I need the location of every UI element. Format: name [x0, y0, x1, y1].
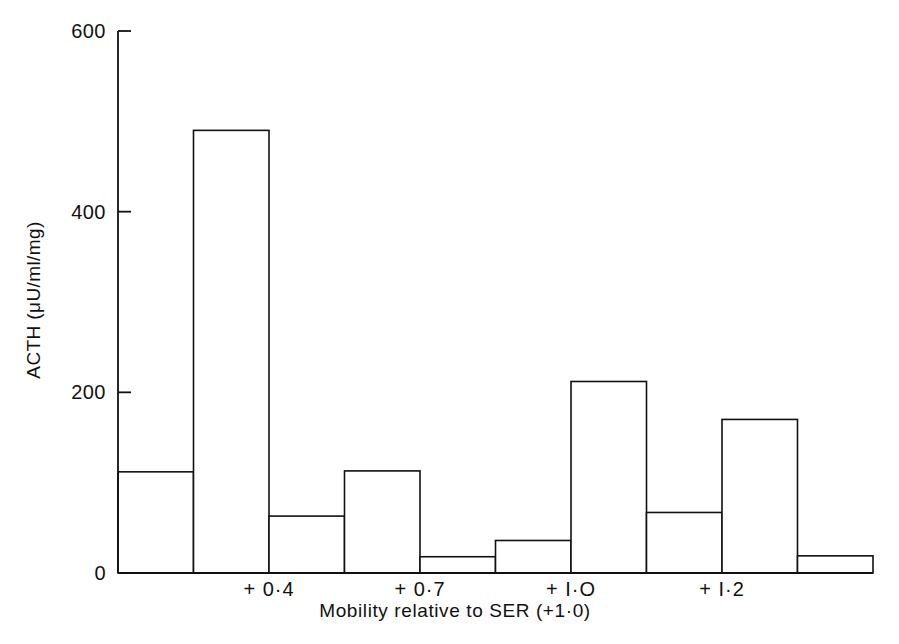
bar: [345, 471, 421, 573]
x-axis-title: Mobility relative to SER (+1·0): [319, 600, 591, 622]
bar: [722, 419, 798, 573]
bar-series: [118, 130, 873, 573]
bar: [118, 472, 194, 573]
y-axis-title-text: ACTH (μU/ml/mg): [23, 221, 44, 378]
y-tick-label: 400: [71, 200, 106, 223]
bar: [194, 130, 270, 573]
chart-canvas: ACTH (μU/ml/mg): [0, 0, 899, 644]
chart-figure: ACTH (μU/ml/mg) 0200400600 + 0·4+ 0·7+ I…: [0, 0, 899, 644]
y-tick-label: 0: [94, 562, 106, 585]
x-tick-label: + 0·4: [243, 578, 294, 601]
bar: [420, 557, 496, 573]
bar: [571, 381, 647, 573]
x-tick-label: + I·2: [699, 578, 745, 601]
y-tick-label: 600: [71, 20, 106, 43]
bar: [496, 540, 572, 573]
bar: [798, 556, 874, 573]
x-tick-label: + I·O: [546, 578, 596, 601]
y-axis-title: ACTH (μU/ml/mg): [23, 221, 44, 378]
y-tick-label: 200: [71, 381, 106, 404]
bar: [269, 516, 345, 573]
bar: [647, 512, 723, 573]
x-tick-label: + 0·7: [394, 578, 445, 601]
